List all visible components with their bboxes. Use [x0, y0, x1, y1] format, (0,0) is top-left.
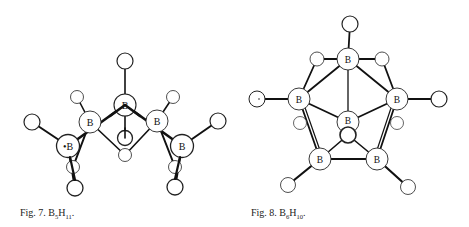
- formula-element: B: [48, 207, 55, 218]
- boron-label: B: [374, 155, 380, 165]
- boron-label: B: [317, 155, 323, 165]
- figure-label: Fig. 8.: [251, 207, 277, 218]
- boron-label: B: [296, 95, 302, 105]
- formula-element: H: [58, 207, 65, 218]
- figure-8-caption: Fig. 8. B6H10.: [251, 207, 306, 220]
- figure-7-b5h11-structure: B B B •B B: [0, 0, 235, 200]
- boron-label: B: [179, 141, 186, 152]
- figure-label: Fig. 7.: [20, 207, 46, 218]
- boron-label: B: [154, 116, 161, 127]
- boron-label: B: [345, 55, 351, 65]
- boron-label: B: [394, 95, 400, 105]
- boron-label: •B: [63, 141, 74, 152]
- caption-period: .: [72, 207, 75, 218]
- boron-label: B: [87, 117, 94, 128]
- formula-element: H: [289, 207, 296, 218]
- figure-7-caption: Fig. 7. B5H11.: [20, 207, 74, 220]
- boron-label: B: [122, 100, 129, 111]
- formula-element: B: [279, 207, 286, 218]
- caption-period: .: [303, 207, 306, 218]
- boron-label: B: [345, 116, 351, 126]
